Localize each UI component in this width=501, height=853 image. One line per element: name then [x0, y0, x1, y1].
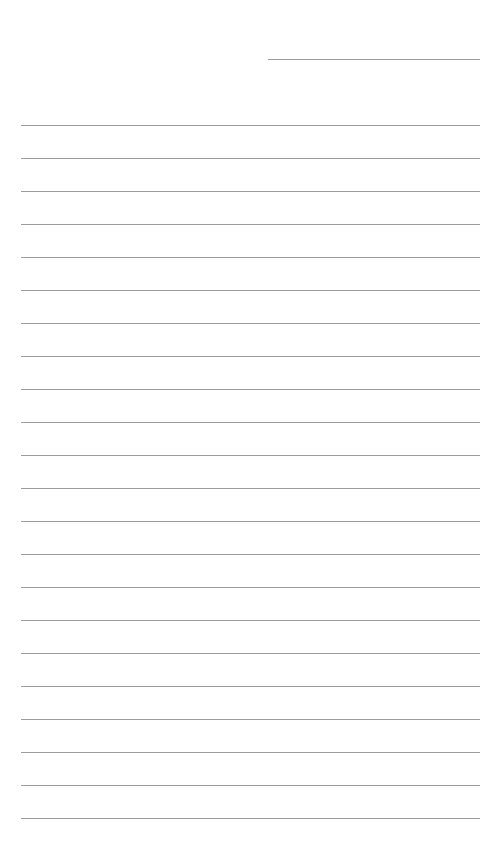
ruled-line [21, 191, 480, 192]
ruled-line [21, 224, 480, 225]
ruled-line [21, 686, 480, 687]
ruled-line [21, 752, 480, 753]
ruled-line [21, 521, 480, 522]
ruled-line [21, 290, 480, 291]
ruled-line [21, 389, 480, 390]
ruled-line [21, 488, 480, 489]
ruled-line [21, 125, 480, 126]
ruled-line [21, 653, 480, 654]
ruled-line [21, 422, 480, 423]
ruled-line [21, 323, 480, 324]
ruled-line [21, 818, 480, 819]
ruled-line [21, 356, 480, 357]
ruled-line [21, 587, 480, 588]
ruled-line [21, 455, 480, 456]
ruled-line [21, 620, 480, 621]
ruled-line [21, 719, 480, 720]
ruled-line [21, 554, 480, 555]
ruled-line [21, 785, 480, 786]
ruled-line [21, 257, 480, 258]
ruled-writing-area [21, 0, 480, 853]
ruled-line [21, 158, 480, 159]
